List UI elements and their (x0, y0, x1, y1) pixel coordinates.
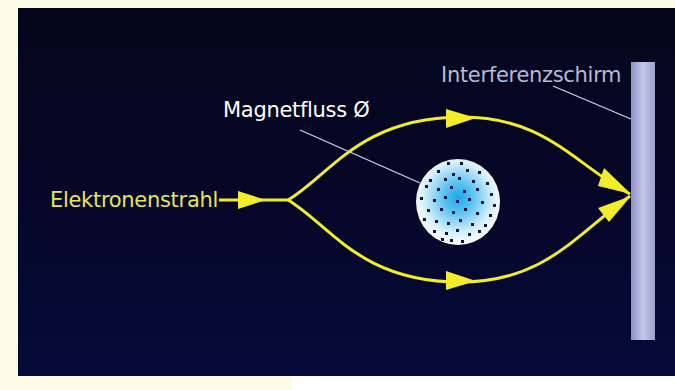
incoming-electron-beam (219, 191, 290, 209)
interference-screen-label: Interferenzschirm (441, 65, 621, 86)
flux-leader-line (300, 130, 420, 183)
interference-screen (631, 62, 655, 340)
electron-beam-label: Elektronenstrahl (50, 190, 218, 211)
magnetic-flux-disk (416, 159, 500, 245)
screen-leader-line (553, 86, 631, 119)
magnetic-flux-label: Magnetfluss Ø (223, 100, 370, 121)
